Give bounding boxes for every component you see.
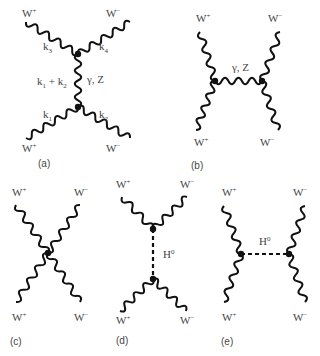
w-boson-line [16, 253, 48, 302]
label-k4: k4 [99, 40, 109, 55]
label-w-minus-top: W− [268, 12, 282, 24]
w-boson-line [260, 32, 280, 81]
w-boson-line [198, 32, 215, 81]
label-w-minus-top: W− [106, 7, 120, 19]
label-w-plus-bottom: W+ [116, 314, 130, 326]
caption-b: (b) [191, 160, 203, 171]
gauge-boson-propagator [75, 54, 81, 107]
label-h0: H0 [259, 235, 271, 247]
vertex-dot [238, 251, 244, 257]
label-w-plus-bottom: W+ [22, 142, 36, 154]
w-boson-line [153, 196, 187, 229]
label-k1-plus-k2: k1 + k2 [37, 75, 67, 90]
label-w-plus-top: W+ [12, 186, 26, 198]
w-boson-line [262, 81, 280, 130]
w-boson-line [224, 254, 243, 302]
label-k1: k1 [43, 108, 53, 123]
vertex-dot [150, 276, 156, 282]
label-w-minus-top: W− [74, 186, 88, 198]
label-w-minus-bottom: W− [74, 311, 88, 323]
panel-e: W+ W− H0 W+ W− (e) [221, 186, 307, 347]
vertex-dot [150, 226, 156, 232]
label-h0: H0 [163, 248, 175, 260]
w-boson-line [120, 279, 153, 312]
vertex-dot [75, 104, 81, 110]
w-boson-line [122, 197, 154, 229]
label-w-minus-top: W− [293, 186, 307, 198]
label-w-minus-bottom: W− [180, 314, 194, 326]
feynman-diagrams-figure: W+ W− k3 k4 k1 + k2 γ, Z k1 k2 W+ W− (a)… [0, 0, 320, 356]
vertex-dot [259, 78, 265, 84]
label-w-plus-top: W+ [196, 12, 210, 24]
label-w-plus-bottom: W+ [12, 311, 26, 323]
label-w-plus-bottom: W+ [222, 311, 236, 323]
w-boson-line [15, 205, 49, 253]
label-k3: k3 [43, 40, 53, 55]
label-w-plus-bottom: W+ [194, 136, 208, 148]
w-boson-line [153, 278, 186, 311]
vertex-dot [286, 251, 292, 257]
label-w-minus-bottom: W− [260, 136, 274, 148]
propagator-lines [15, 21, 307, 312]
vertex-dot [75, 51, 81, 57]
vertex-dot [45, 250, 51, 256]
caption-a: (a) [38, 158, 50, 169]
w-boson-line [26, 107, 78, 139]
caption-e: (e) [221, 336, 233, 347]
panel-b: W+ W− γ, Z W+ W− (b) [191, 12, 282, 171]
w-boson-line [47, 253, 81, 302]
label-gamma-z: γ, Z [231, 61, 249, 73]
gauge-boson-propagator [215, 78, 262, 84]
label-w-minus-top: W− [180, 178, 194, 190]
w-boson-line [289, 254, 307, 302]
label-w-plus-top: W+ [22, 7, 36, 19]
w-boson-line [222, 206, 241, 254]
caption-d: (d) [116, 335, 128, 346]
label-w-plus-top: W+ [222, 186, 236, 198]
w-boson-line [48, 205, 80, 253]
w-boson-line [196, 81, 215, 130]
w-boson-line [287, 206, 305, 254]
label-w-plus-top: W+ [116, 178, 130, 190]
label-w-minus-bottom: W− [106, 142, 120, 154]
vertex-dot [212, 78, 218, 84]
caption-c: (c) [10, 336, 22, 347]
label-w-minus-bottom: W− [293, 311, 307, 323]
label-gamma-z: γ, Z [86, 73, 104, 85]
